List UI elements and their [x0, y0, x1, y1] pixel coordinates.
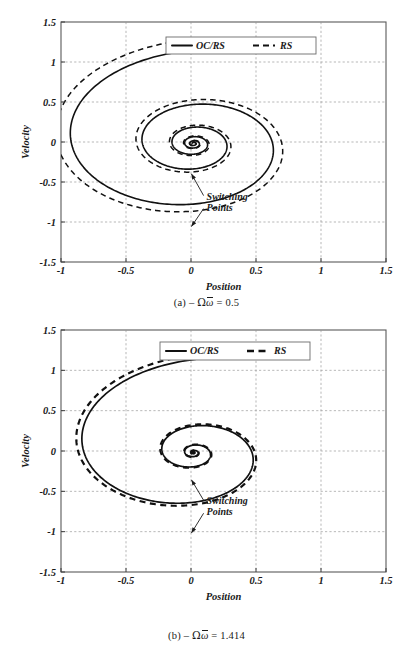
y-tick-label: -1	[47, 217, 56, 228]
y-tick-label: 1	[51, 365, 56, 376]
legend: OC/RSRS	[160, 342, 310, 360]
x-tick-label: 0	[188, 575, 194, 586]
annotation-switching-line2: Points	[207, 202, 233, 213]
caption-a-minus: –	[189, 297, 194, 308]
x-tick-label: 0.5	[249, 575, 262, 586]
x-axis-title: Position	[206, 591, 242, 602]
x-tick-label: 1	[318, 575, 323, 586]
annotation-switching-line1: Switching	[207, 495, 248, 506]
y-tick-label: -0.5	[39, 177, 56, 188]
caption-a-omega-bar: ω	[206, 297, 214, 308]
x-axis-title: Position	[206, 281, 242, 292]
y-tick-label: -1	[47, 526, 56, 537]
y-tick-label: 0	[51, 446, 57, 457]
y-tick-label: 1.5	[43, 17, 56, 28]
caption-b-prefix: (b)	[168, 630, 181, 641]
y-tick-label: 0	[51, 137, 57, 148]
chart-panel-b: -1-0.500.511.51.510.50-0.5-1-1.5Position…	[0, 308, 413, 653]
caption-b-equals: =	[211, 630, 217, 641]
panel-b-caption: (b) – Ωω = 1.414	[0, 629, 413, 641]
annotation-switching-line2: Points	[207, 506, 233, 517]
x-tick-label: -0.5	[118, 575, 135, 586]
caption-a-prefix: (a)	[174, 297, 186, 308]
caption-b-minus: –	[184, 630, 189, 641]
figure-page: -1-0.500.511.51.510.50-0.5-1-1.5Position…	[0, 0, 413, 653]
legend-label-rs: RS	[279, 40, 293, 51]
y-tick-label: 1.5	[43, 325, 56, 336]
y-tick-label: 0.5	[43, 405, 56, 416]
x-tick-label: 0	[188, 265, 194, 276]
legend-label-oc-rs: OC/RS	[190, 345, 219, 356]
phase-portrait-a: -1-0.500.511.51.510.50-0.5-1-1.5Position…	[0, 0, 413, 300]
y-tick-label: -0.5	[39, 486, 56, 497]
caption-b-value: 1.414	[220, 630, 245, 641]
y-tick-label: -1.5	[39, 257, 56, 268]
legend-label-rs: RS	[273, 345, 287, 356]
caption-a-value: 0.5	[225, 297, 239, 308]
annotation-switching-line1: Switching	[207, 191, 248, 202]
chart-panel-a: -1-0.500.511.51.510.50-0.5-1-1.5Position…	[0, 0, 413, 320]
y-axis-title: Velocity	[20, 125, 31, 159]
y-tick-label: 0.5	[43, 97, 56, 108]
x-tick-label: 0.5	[249, 265, 262, 276]
legend-label-oc-rs: OC/RS	[196, 40, 225, 51]
x-tick-label: 1.5	[379, 265, 392, 276]
y-tick-label: 1	[51, 57, 56, 68]
x-tick-label: -0.5	[118, 265, 135, 276]
x-tick-label: -1	[57, 575, 66, 586]
caption-b-omega-uppercase: Ω	[192, 629, 201, 641]
caption-a-omega-uppercase: Ω	[197, 296, 206, 308]
x-tick-label: 1	[318, 265, 323, 276]
caption-a-equals: =	[217, 297, 223, 308]
legend: OC/RSRS	[166, 37, 316, 54]
phase-portrait-b: -1-0.500.511.51.510.50-0.5-1-1.5Position…	[0, 308, 413, 620]
y-axis-title: Velocity	[20, 434, 31, 468]
x-tick-label: 1.5	[379, 575, 392, 586]
panel-a-caption: (a) – Ωω = 0.5	[0, 296, 413, 308]
x-tick-label: -1	[57, 265, 66, 276]
y-tick-label: -1.5	[39, 567, 56, 578]
caption-b-omega-bar: ω	[201, 630, 209, 641]
